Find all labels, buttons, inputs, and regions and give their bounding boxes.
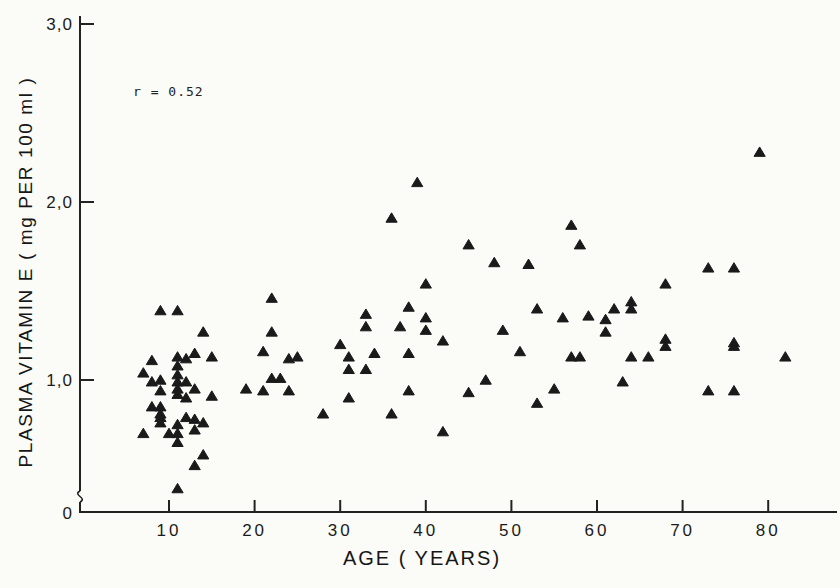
- data-point-triangle: [172, 305, 183, 314]
- x-tick-label: 40: [413, 521, 438, 540]
- data-point-triangle: [206, 352, 217, 361]
- data-point-triangle: [266, 327, 277, 336]
- scatter-plot-svg: 3,02,01,001020304050607080: [0, 0, 840, 588]
- data-point-triangle: [198, 327, 209, 336]
- data-point-triangle: [489, 257, 500, 266]
- x-tick-label: 50: [499, 521, 524, 540]
- data-point-triangle: [531, 398, 542, 407]
- x-tick-label: 60: [585, 521, 610, 540]
- data-point-triangle: [317, 409, 328, 418]
- data-point-triangle: [172, 483, 183, 492]
- data-point-triangle: [189, 414, 200, 423]
- y-tick-label: 0: [63, 504, 73, 523]
- data-point-triangle: [583, 311, 594, 320]
- data-point-triangle: [206, 391, 217, 400]
- data-point-triangle: [609, 304, 620, 313]
- data-point-triangle: [480, 375, 491, 384]
- data-point-triangle: [497, 325, 508, 334]
- data-point-triangle: [403, 348, 414, 357]
- data-point-triangle: [155, 375, 166, 384]
- data-point-triangle: [617, 377, 628, 386]
- data-point-triangle: [420, 313, 431, 322]
- data-point-triangle: [574, 352, 585, 361]
- data-point-triangle: [643, 352, 654, 361]
- data-point-triangle: [240, 384, 251, 393]
- data-point-triangle: [266, 293, 277, 302]
- data-point-triangle: [420, 279, 431, 288]
- data-point-triangle: [275, 373, 286, 382]
- data-point-triangle: [437, 426, 448, 435]
- data-point-triangle: [703, 263, 714, 272]
- data-point-triangle: [754, 147, 765, 156]
- data-point-triangle: [703, 385, 714, 394]
- data-point-triangle: [172, 437, 183, 446]
- data-point-triangle: [258, 346, 269, 355]
- y-tick-label: 1,0: [46, 371, 73, 390]
- data-point-triangle: [566, 220, 577, 229]
- data-point-triangle: [360, 364, 371, 373]
- data-point-triangle: [463, 387, 474, 396]
- data-point-triangle: [403, 385, 414, 394]
- data-point-triangle: [258, 385, 269, 394]
- data-point-triangle: [395, 321, 406, 330]
- data-point-triangle: [403, 302, 414, 311]
- data-point-triangle: [343, 352, 354, 361]
- data-point-triangle: [172, 352, 183, 361]
- figure-canvas: 3,02,01,001020304050607080 PLASMA VITAMI…: [0, 0, 840, 588]
- x-tick-label: 20: [242, 521, 267, 540]
- data-point-triangle: [292, 352, 303, 361]
- data-point-triangle: [189, 460, 200, 469]
- data-point-triangle: [343, 364, 354, 373]
- x-tick-label: 70: [670, 521, 695, 540]
- data-point-triangle: [780, 352, 791, 361]
- data-point-triangle: [360, 321, 371, 330]
- data-point-triangle: [463, 240, 474, 249]
- data-point-triangle: [155, 385, 166, 394]
- axis-break-squiggle: [78, 491, 83, 502]
- y-axis-title: PLASMA VITAMIN E ( mg PER 100 ml ): [15, 77, 37, 468]
- data-point-triangle: [181, 353, 192, 362]
- x-tick-label: 10: [157, 521, 182, 540]
- data-point-triangle: [343, 393, 354, 402]
- data-point-triangle: [360, 309, 371, 318]
- data-point-triangle: [138, 368, 149, 377]
- data-point-triangle: [514, 346, 525, 355]
- data-point-triangle: [412, 177, 423, 186]
- data-point-triangle: [335, 339, 346, 348]
- data-point-triangle: [189, 348, 200, 357]
- data-point-triangle: [600, 327, 611, 336]
- data-point-triangle: [146, 355, 157, 364]
- y-tick-label: 2,0: [46, 193, 73, 212]
- data-point-triangle: [155, 305, 166, 314]
- data-point-triangle: [626, 352, 637, 361]
- data-point-triangle: [523, 259, 534, 268]
- x-tick-label: 30: [328, 521, 353, 540]
- data-point-triangle: [386, 213, 397, 222]
- x-tick-label: 80: [756, 521, 781, 540]
- data-point-triangle: [600, 314, 611, 323]
- data-point-triangle: [172, 428, 183, 437]
- data-point-triangle: [420, 325, 431, 334]
- data-point-triangle: [369, 348, 380, 357]
- y-tick-label: 3,0: [46, 15, 73, 34]
- x-axis: [80, 502, 837, 512]
- x-axis-title: AGE ( YEARS): [343, 547, 501, 570]
- data-point-triangle: [181, 412, 192, 421]
- data-point-triangle: [728, 385, 739, 394]
- data-point-triangle: [728, 263, 739, 272]
- data-point-triangle: [574, 240, 585, 249]
- data-point-triangle: [283, 385, 294, 394]
- correlation-annotation: r = 0.52: [133, 84, 204, 99]
- data-point-triangle: [386, 409, 397, 418]
- data-point-triangle: [138, 428, 149, 437]
- data-point-triangle: [557, 313, 568, 322]
- data-point-triangle: [660, 279, 671, 288]
- data-point-triangle: [531, 304, 542, 313]
- data-point-triangle: [198, 450, 209, 459]
- data-point-triangle: [437, 336, 448, 345]
- data-point-triangle: [549, 384, 560, 393]
